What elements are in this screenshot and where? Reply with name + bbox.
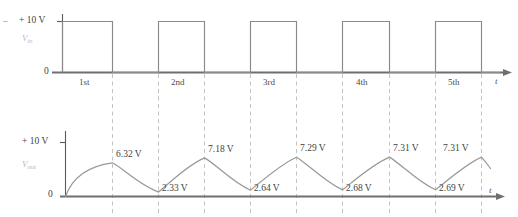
output-valley-label-4: 2.69 V [439, 184, 465, 194]
output-peak-label-2: 7.18 V [208, 145, 234, 155]
output-signal-label: Vout [22, 160, 36, 170]
output-time-axis-label: t [489, 186, 492, 195]
stray-dash-mark: – [3, 17, 8, 27]
output-valley-label-3: 2.68 V [346, 184, 372, 194]
input-pulse-label-1: 1st [79, 78, 90, 87]
input-pulse-label-2: 2nd [171, 78, 185, 87]
output-peak-label-1: 6.32 V [116, 150, 142, 160]
output-time-axis-arrow [496, 193, 505, 200]
input-ytick-label: + 10 V [19, 16, 45, 26]
output-valley-label-1: 2.33 V [162, 184, 188, 194]
input-pulse-label-5: 5th [448, 78, 460, 87]
input-zero-label: 0 [44, 67, 49, 77]
input-time-axis-arrow [503, 69, 512, 76]
output-peak-label-5: 7.31 V [443, 144, 469, 154]
output-peak-label-3: 7.29 V [300, 144, 326, 154]
input-square-wave [63, 22, 501, 73]
output-zero-label: 0 [48, 190, 53, 200]
input-pulse-label-4: 4th [356, 78, 368, 87]
output-valley-label-2: 2.64 V [254, 184, 280, 194]
output-ytick-label: + 10 V [22, 137, 48, 147]
output-peak-label-4: 7.31 V [393, 144, 419, 154]
input-signal-label: Vin [22, 34, 33, 44]
input-time-axis-label: t [495, 77, 498, 86]
input-signal-subscript: in [28, 37, 33, 44]
waveform-figure: – + 10 V Vin 0 1st 2nd 3rd 4th 5th t + 1… [0, 0, 518, 217]
output-signal-subscript: out [28, 163, 36, 170]
input-pulse-label-3: 3rd [263, 78, 275, 87]
